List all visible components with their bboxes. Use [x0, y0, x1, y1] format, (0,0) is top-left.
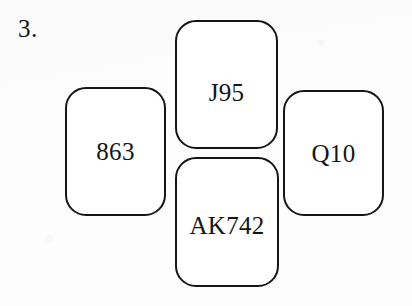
figure-canvas: 3. J95 863 Q10 AK742: [0, 0, 412, 306]
card-bottom: AK742: [175, 157, 279, 287]
item-number-label: 3.: [18, 16, 38, 41]
card-top: J95: [175, 20, 278, 149]
card-top-label: J95: [209, 80, 245, 105]
card-right-label: Q10: [312, 141, 356, 166]
card-left: 863: [65, 87, 166, 216]
card-bottom-label: AK742: [189, 213, 264, 238]
card-left-label: 863: [96, 139, 134, 164]
card-right: Q10: [283, 90, 384, 216]
